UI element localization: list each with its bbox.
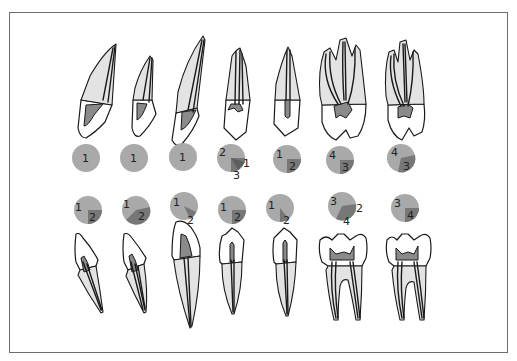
- upper-lateral-incisor: [132, 56, 156, 136]
- svg-text:3: 3: [394, 197, 401, 210]
- svg-text:4: 4: [407, 209, 414, 222]
- lower-central-incisor: [75, 234, 103, 314]
- upper-first-molar: [320, 38, 367, 140]
- lower-circle-1: 1 2: [74, 196, 102, 224]
- svg-text:1: 1: [123, 198, 130, 211]
- svg-text:1: 1: [130, 152, 137, 165]
- lower-second-molar: [386, 234, 431, 320]
- upper-circle-3: 1: [169, 143, 197, 171]
- upper-circle-1: 1: [72, 144, 100, 172]
- svg-text:2: 2: [234, 211, 241, 224]
- lower-canine: [172, 221, 200, 328]
- svg-text:2: 2: [89, 211, 96, 224]
- svg-text:3: 3: [403, 160, 410, 173]
- upper-circle-2: 1: [120, 144, 148, 172]
- upper-circle-4: 2 1 3: [217, 144, 250, 182]
- dental-diagram: .ol{stroke:#1a1a1a;stroke-width:1.2;fill…: [0, 0, 517, 361]
- svg-text:1: 1: [173, 196, 180, 209]
- svg-text:4: 4: [391, 146, 398, 159]
- upper-circle-7: 4 3: [387, 144, 415, 173]
- lower-first-molar: [319, 234, 367, 320]
- upper-second-premolar: [274, 47, 300, 136]
- upper-canine: [172, 36, 205, 145]
- svg-text:2: 2: [289, 160, 296, 173]
- svg-text:4: 4: [329, 149, 336, 162]
- lower-circle-4: 1 2: [218, 196, 246, 224]
- lower-first-premolar: [219, 228, 244, 314]
- lower-circle-2: 1 2: [122, 196, 151, 225]
- svg-text:2: 2: [356, 202, 363, 215]
- svg-text:1: 1: [276, 148, 283, 161]
- svg-text:4: 4: [343, 215, 350, 228]
- upper-second-molar: [385, 40, 424, 140]
- lower-second-premolar: [273, 228, 297, 316]
- svg-text:1: 1: [243, 157, 250, 170]
- svg-text:1: 1: [75, 201, 82, 214]
- upper-circle-6: 4 3: [326, 146, 354, 174]
- svg-text:2: 2: [219, 146, 226, 159]
- upper-first-premolar: [224, 48, 250, 140]
- lower-lateral-incisor: [123, 234, 147, 314]
- lower-circle-5: 1 2: [266, 194, 294, 227]
- lower-circle-6: 3 2 4: [328, 192, 363, 228]
- svg-text:1: 1: [220, 201, 227, 214]
- svg-text:1: 1: [268, 199, 275, 212]
- svg-text:1: 1: [82, 152, 89, 165]
- svg-text:1: 1: [179, 151, 186, 164]
- lower-circle-7: 3 4: [391, 194, 419, 222]
- svg-text:2: 2: [283, 214, 290, 227]
- svg-text:3: 3: [233, 169, 240, 182]
- svg-text:3: 3: [330, 195, 337, 208]
- upper-circle-5: 1 2: [273, 145, 301, 173]
- svg-text:2: 2: [138, 210, 145, 223]
- upper-central-incisor: [78, 44, 116, 138]
- svg-text:3: 3: [342, 161, 349, 174]
